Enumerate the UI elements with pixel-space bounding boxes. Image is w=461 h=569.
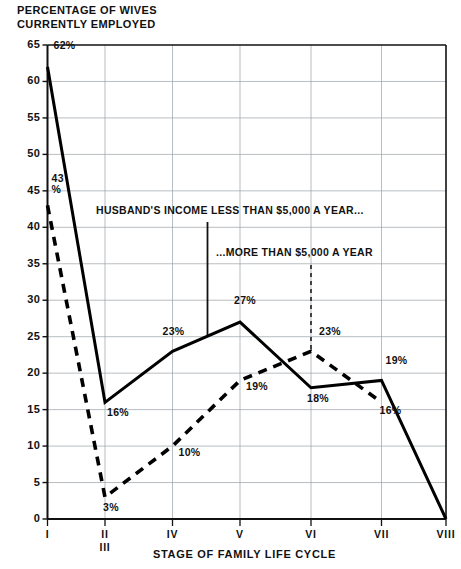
- chart-figure: PERCENTAGE OF WIVES CURRENTLY EMPLOYED 6…: [0, 0, 461, 569]
- series-annotation-2: ...MORE THAN $5,000 A YEAR: [216, 246, 373, 258]
- x-tick-label: VIII: [437, 528, 456, 540]
- data-point-label: 62%: [54, 39, 76, 51]
- axis-ticks: [43, 45, 447, 526]
- axis-frame: [48, 45, 447, 519]
- x-axis-title: STAGE OF FAMILY LIFE CYCLE: [14, 548, 461, 560]
- data-point-label: 19%: [386, 354, 408, 366]
- y-tick-label: 50: [14, 147, 40, 159]
- series-line-1: [48, 67, 447, 519]
- data-point-label: 10%: [179, 446, 201, 458]
- x-tick-label: II: [101, 528, 108, 540]
- chart-plot-area: [0, 0, 461, 569]
- data-point-label: 3%: [103, 501, 119, 513]
- y-tick-label: 20: [14, 366, 40, 378]
- data-point-label: 19%: [246, 380, 268, 392]
- x-tick-label: VI: [305, 528, 317, 540]
- x-tick-label: IV: [167, 528, 179, 540]
- data-point-label: 27%: [234, 294, 256, 306]
- y-tick-label: 65: [14, 38, 40, 50]
- y-tick-label: 35: [14, 257, 40, 269]
- y-tick-label: 10: [14, 439, 40, 451]
- x-tick-label: I: [46, 528, 50, 540]
- gridlines: [48, 45, 447, 519]
- x-tick-label: VII: [374, 528, 389, 540]
- data-point-label: 23%: [319, 325, 341, 337]
- data-point-label: 43 %: [52, 173, 64, 194]
- y-tick-label: 5: [14, 476, 40, 488]
- y-tick-label: 55: [14, 111, 40, 123]
- data-point-label: 18%: [307, 392, 329, 404]
- y-tick-label: 25: [14, 330, 40, 342]
- data-point-label: 16%: [107, 406, 129, 418]
- y-tick-label: 0: [14, 512, 40, 524]
- x-tick-label: V: [236, 528, 244, 540]
- data-point-label: 16%: [380, 404, 402, 416]
- series-annotation-1: HUSBAND'S INCOME LESS THAN $5,000 A YEAR…: [96, 204, 364, 216]
- y-tick-label: 40: [14, 220, 40, 232]
- y-tick-label: 15: [14, 403, 40, 415]
- y-tick-label: 30: [14, 293, 40, 305]
- y-tick-label: 45: [14, 184, 40, 196]
- data-series-lines: [48, 67, 447, 519]
- data-point-label: 23%: [163, 325, 185, 337]
- y-tick-label: 60: [14, 74, 40, 86]
